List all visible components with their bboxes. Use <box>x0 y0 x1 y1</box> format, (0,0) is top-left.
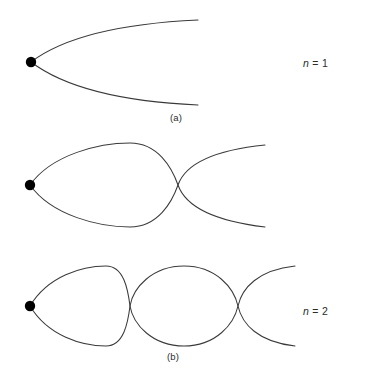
panel-a: (a) n = 1 <box>0 0 366 130</box>
strand-upper-c <box>30 266 295 346</box>
origin-dot-c <box>25 301 35 311</box>
quantum-number-equals-a: = <box>309 57 322 69</box>
subfigure-label-a: (a) <box>170 112 182 123</box>
origin-dot-a <box>26 57 36 67</box>
wave-diagram-b <box>0 130 366 248</box>
panel-b: (b) n = 2 <box>0 130 366 248</box>
strand-upper-b <box>30 143 265 227</box>
upper-curve-a <box>31 20 198 62</box>
origin-dot-b <box>25 180 35 190</box>
wave-diagram-c <box>0 248 366 382</box>
figure-container: (a) n = 1 (b) n = 2 (c) n = 3 <box>0 0 366 382</box>
quantum-number-label-a: n = 1 <box>303 57 328 69</box>
lower-curve-a <box>31 62 198 105</box>
panel-c: (c) n = 3 <box>0 248 366 382</box>
strand-lower-c <box>30 266 295 346</box>
quantum-number-value-a: 1 <box>322 57 328 69</box>
